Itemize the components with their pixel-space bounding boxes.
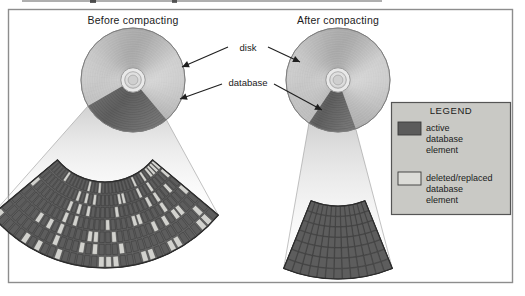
fan-after-cell-active	[317, 267, 326, 278]
fan-after-cell-active	[334, 258, 341, 268]
fan-before-cell-active	[96, 207, 100, 218]
legend-active-line-2: database	[426, 134, 463, 144]
figure-container: Before compacting After compacting disk …	[0, 0, 525, 296]
fan-before-cell-active	[101, 207, 105, 218]
fan-after-cell-active	[342, 248, 349, 258]
fan-after-cell-active	[342, 258, 350, 268]
annotation-disk-label: disk	[240, 42, 257, 53]
fan-after-cell-active	[341, 216, 346, 226]
legend-active-line-3: element	[426, 145, 459, 155]
fan-before-cell-active	[100, 220, 104, 231]
legend-active-line-1: active	[426, 123, 450, 133]
fan-before-cell-active	[105, 195, 108, 206]
fan-after-cell-active	[342, 268, 350, 278]
legend-panel: LEGEND active database element deleted/r…	[392, 103, 511, 215]
fan-before-cell-active	[106, 244, 111, 255]
fan-after-cell-active	[322, 236, 329, 247]
annotation-database-label: database	[228, 77, 267, 88]
fan-after-cell-active	[336, 206, 341, 216]
fan-after-cell-active	[325, 268, 333, 278]
fan-after-cell-active	[335, 248, 342, 258]
diagram-canvas: Before compacting After compacting disk …	[0, 0, 525, 296]
fan-before-cell-active	[105, 183, 108, 194]
fan-after-cell-active	[347, 236, 354, 247]
fan-before-cell-active	[106, 207, 110, 218]
fan-after-cell-active	[328, 237, 335, 247]
legend-deleted-line-3: element	[426, 195, 459, 205]
fan-after-cell-active	[330, 216, 335, 226]
fan-before-cell-active	[91, 256, 97, 267]
fan-after-cell-active	[341, 237, 348, 247]
fan-after-cell-active	[320, 247, 328, 258]
fan-before-cell-active	[112, 244, 118, 255]
fan-before-cell-active	[110, 207, 114, 218]
legend-deleted-swatch	[398, 172, 421, 185]
legend-deleted-line-1: deleted/replaced	[426, 173, 493, 183]
fan-after-cell-active	[318, 257, 326, 268]
fan-after-cell-active	[350, 267, 359, 278]
disk-after-spindle-hole	[333, 75, 343, 85]
fan-after-cell-active	[331, 206, 336, 216]
fan-before-cell-deleted	[92, 244, 98, 255]
fan-after-cell-active	[335, 237, 341, 247]
fan-after-cell-active	[329, 227, 335, 237]
legend-active-swatch	[398, 122, 421, 135]
fan-after-cell-active	[340, 206, 345, 216]
fan-after-cell-active	[335, 217, 340, 227]
fan-before-cell-active	[99, 232, 104, 243]
fan-after-cell-active	[341, 227, 347, 237]
disk-after-compacting	[286, 28, 390, 132]
fan-after-cell-active	[334, 269, 342, 279]
fan-before-cell-deleted	[106, 256, 112, 267]
fan-before-cell-active	[102, 183, 105, 194]
fan-before-cell-active	[111, 219, 116, 230]
fan-after-cell-active	[346, 226, 353, 236]
fan-before-cell-deleted	[93, 232, 98, 243]
disk-before-spindle-hole	[128, 75, 138, 85]
fan-after-cell-active	[327, 248, 334, 258]
fan-before-cell-deleted	[106, 220, 110, 231]
legend-deleted-line-2: database	[426, 184, 463, 194]
fan-before-cell-active	[99, 244, 104, 255]
title-after-compacting: After compacting	[297, 14, 379, 26]
title-before-compacting: Before compacting	[88, 14, 179, 26]
fan-before-cell-active	[106, 232, 111, 243]
fan-before-cell-deleted	[98, 256, 104, 267]
fan-before-cell-deleted	[113, 256, 119, 267]
fan-after-cell-active	[335, 227, 341, 237]
legend-heading: LEGEND	[430, 105, 473, 116]
fan-after-cell-active	[348, 247, 356, 258]
fan-before-cell-deleted	[111, 232, 116, 243]
disk-before-compacting	[81, 28, 185, 132]
fan-before-cell-active	[94, 219, 99, 230]
fan-after-cell-active	[349, 257, 357, 268]
fan-after-cell-active	[326, 258, 334, 268]
fan-before-cell-active	[101, 195, 104, 206]
